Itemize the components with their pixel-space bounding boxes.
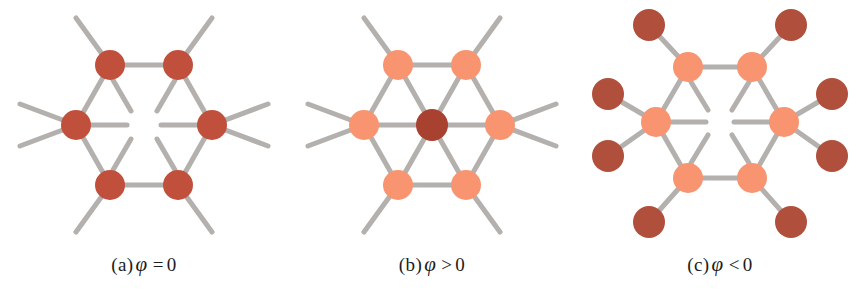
panel-b-atoms [349, 50, 515, 200]
bond-inward-stub [157, 80, 175, 111]
outer-atom-4 [816, 78, 848, 110]
atom-center [416, 109, 448, 141]
panel-b-diagram [288, 0, 576, 250]
panel-b-caption-label: (b) [399, 254, 422, 275]
panel-b: (b)φ>0 [288, 0, 576, 305]
panel-c-diagram [576, 0, 864, 250]
bond-inward-stub [732, 135, 749, 163]
atom-top-left [673, 52, 703, 82]
atom-right [769, 107, 799, 137]
atom-bottom-left [383, 170, 413, 200]
bond-inward-stub [732, 82, 749, 110]
panel-a-caption-symbol: φ [134, 252, 150, 276]
panel-a-caption-value: 0 [167, 254, 177, 275]
panel-c-atoms [641, 52, 799, 193]
panel-b-caption-relation: > [438, 254, 455, 275]
figure-container: (a)φ=0 [0, 0, 864, 305]
panel-c-outer-atoms [592, 9, 848, 238]
outer-atom-2 [775, 9, 807, 41]
panel-a-caption-relation: = [150, 254, 167, 275]
panel-c-caption-symbol: φ [710, 252, 726, 276]
outer-atom-7 [633, 206, 665, 238]
bond-inward-stub [113, 139, 131, 170]
panel-c-caption-relation: < [726, 254, 743, 275]
atom-top-right [737, 52, 767, 82]
outer-atom-3 [592, 78, 624, 110]
atom-top-left [95, 50, 125, 80]
bond-inward-stub [113, 80, 131, 111]
panel-a-bonds [20, 18, 268, 232]
atom-right [485, 110, 515, 140]
panel-c-caption-value: 0 [743, 254, 753, 275]
atom-top-right [451, 50, 481, 80]
bond-inward-stub [691, 135, 708, 163]
atom-bottom-right [451, 170, 481, 200]
outer-atom-1 [633, 9, 665, 41]
outer-atom-5 [592, 140, 624, 172]
panel-a-caption: (a)φ=0 [111, 254, 176, 275]
atom-bottom-left [673, 163, 703, 193]
atom-bottom-right [163, 170, 193, 200]
atom-bottom-left [95, 170, 125, 200]
atom-top-right [163, 50, 193, 80]
panel-a-caption-label: (a) [111, 254, 133, 275]
bond-inward-stub [691, 82, 708, 110]
panel-a-diagram [0, 0, 288, 250]
outer-atom-8 [775, 206, 807, 238]
atom-left [349, 110, 379, 140]
panel-a-atoms [61, 50, 227, 200]
panel-a: (a)φ=0 [0, 0, 288, 305]
panel-b-caption-symbol: φ [422, 252, 438, 276]
atom-right [197, 110, 227, 140]
outer-atom-6 [816, 140, 848, 172]
atom-top-left [383, 50, 413, 80]
atom-left [641, 107, 671, 137]
atom-bottom-right [737, 163, 767, 193]
panel-c: (c)φ<0 [576, 0, 864, 305]
panel-b-caption: (b)φ>0 [399, 254, 465, 275]
atom-left [61, 110, 91, 140]
panel-b-caption-value: 0 [455, 254, 465, 275]
panel-c-caption-label: (c) [687, 254, 709, 275]
panel-c-caption: (c)φ<0 [687, 254, 752, 275]
bond-inward-stub [157, 139, 175, 170]
